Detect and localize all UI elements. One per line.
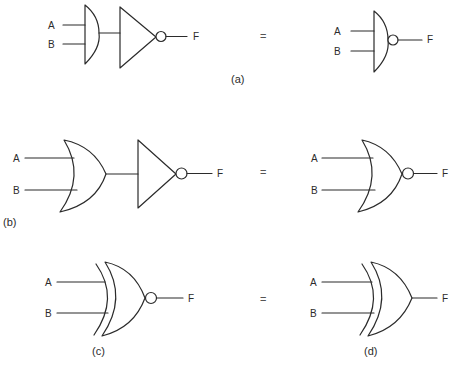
equals-sign-a: = (260, 30, 266, 42)
inversion-bubble-icon (156, 32, 166, 42)
caption-c: (c) (92, 345, 105, 357)
xor-extra-arc-icon (360, 264, 374, 335)
inversion-bubble-icon (388, 35, 398, 45)
input-label-b: B (311, 185, 318, 196)
output-label-f: F (188, 293, 194, 304)
input-label-a: A (48, 20, 55, 31)
row-b-right-nor: A B F (311, 140, 448, 212)
input-label-a: A (310, 277, 317, 288)
input-label-a: A (13, 153, 20, 164)
input-label-b: B (310, 308, 317, 319)
input-label-a: A (334, 26, 341, 37)
input-label-b: B (48, 39, 55, 50)
input-label-a: A (45, 277, 52, 288)
row-b-left-or-not: A B F (13, 140, 223, 212)
or-gate-icon (60, 140, 106, 212)
output-label-f: F (193, 31, 199, 42)
row-d-xor: A B F (310, 262, 448, 336)
caption-a: (a) (231, 73, 244, 85)
not-gate-icon (138, 140, 176, 208)
not-gate-icon (120, 7, 156, 68)
input-label-a: A (311, 153, 318, 164)
caption-d: (d) (364, 345, 377, 357)
nand-gate-icon (374, 11, 388, 72)
row-c-xnor: A B F (45, 262, 194, 336)
output-label-f: F (442, 168, 448, 179)
and-gate-icon (85, 5, 99, 64)
caption-b: (b) (3, 216, 16, 228)
xnor-gate-icon (102, 262, 145, 336)
equals-sign-b: = (260, 166, 266, 178)
input-label-b: B (13, 185, 20, 196)
xor-extra-arc-icon (94, 264, 108, 335)
inversion-bubble-icon (176, 168, 187, 179)
inversion-bubble-icon (403, 168, 414, 179)
input-label-b: B (45, 308, 52, 319)
output-label-f: F (442, 293, 448, 304)
output-label-f: F (217, 168, 223, 179)
input-label-b: B (334, 46, 341, 57)
row-a-left-and-not: A B F (48, 5, 199, 68)
logic-gate-diagram: A B F = A B F (a) A B F = A (0, 0, 460, 374)
nor-gate-icon (358, 140, 402, 212)
equals-sign-c: = (260, 293, 266, 305)
row-a-right-nand: A B F (334, 11, 433, 72)
inversion-bubble-icon (146, 293, 157, 304)
xor-gate-icon (368, 262, 412, 336)
output-label-f: F (427, 34, 433, 45)
